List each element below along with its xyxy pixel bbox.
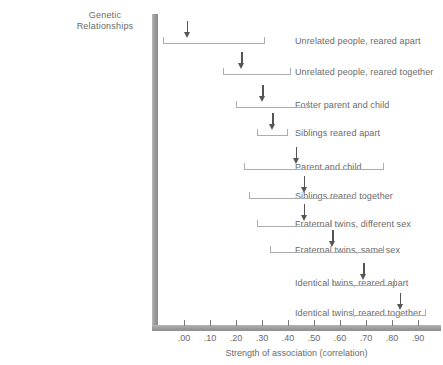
x-axis-title: Strength of association (correlation)	[152, 348, 441, 358]
x-axis-tick-label: .60	[334, 333, 347, 343]
range-bracket	[163, 37, 264, 44]
x-axis-tick-label: .80	[386, 333, 399, 343]
arrow-head-icon	[329, 241, 335, 247]
range-bracket	[332, 279, 394, 286]
genetic-relationships-chart: Genetic Relationships Unrelated people, …	[0, 0, 443, 365]
arrow-head-icon	[301, 187, 307, 193]
range-bracket	[244, 163, 384, 170]
x-axis-tick-label: .90	[412, 333, 425, 343]
arrow-head-icon	[259, 96, 265, 102]
row-label: Unrelated people, reared apart	[295, 36, 443, 46]
x-axis-tick	[314, 320, 315, 326]
x-axis-tick	[392, 320, 393, 326]
row-label: Foster parent and child	[295, 100, 443, 110]
range-bracket	[257, 129, 288, 136]
column-title-line1: Genetic	[40, 10, 170, 21]
range-bracket	[270, 246, 384, 253]
x-axis-bar	[152, 325, 441, 331]
x-axis-tick-label: .70	[360, 333, 373, 343]
x-axis-tick	[288, 320, 289, 326]
x-axis-tick-label: .20	[230, 333, 243, 343]
x-axis-tick-label: .00	[178, 333, 191, 343]
arrow-head-icon	[269, 124, 275, 130]
arrow-head-icon	[293, 158, 299, 164]
x-axis-tick	[340, 320, 341, 326]
arrow-head-icon	[360, 274, 366, 280]
x-axis-tick	[366, 320, 367, 326]
x-axis-tick-label: .30	[256, 333, 269, 343]
row-label: Siblings reared apart	[295, 128, 443, 138]
arrow-head-icon	[238, 63, 244, 69]
x-axis-tick-label: .50	[308, 333, 321, 343]
x-axis-tick	[184, 320, 185, 326]
x-axis-tick	[262, 320, 263, 326]
arrow-head-icon	[301, 215, 307, 221]
range-bracket	[249, 192, 356, 199]
range-bracket	[257, 220, 332, 227]
x-axis-tick	[418, 320, 419, 326]
arrow-head-icon	[397, 304, 403, 310]
x-axis-tick-label: .10	[204, 333, 217, 343]
arrow-head-icon	[184, 32, 190, 38]
range-bracket	[353, 309, 426, 316]
y-axis-bar	[152, 14, 158, 331]
range-bracket	[236, 101, 309, 108]
range-bracket	[223, 68, 291, 75]
row-label: Unrelated people, reared together	[295, 67, 443, 77]
column-title: Genetic Relationships	[40, 10, 170, 32]
x-axis-tick	[236, 320, 237, 326]
column-title-line2: Relationships	[40, 21, 170, 32]
x-axis-tick	[210, 320, 211, 326]
x-axis-tick-label: .40	[282, 333, 295, 343]
